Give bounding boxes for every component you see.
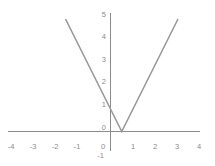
y-tick-label--1: -1 <box>90 152 104 160</box>
x-tick-label--4: -4 <box>3 143 19 151</box>
series-line-abs-value <box>66 19 179 132</box>
x-tick-label-0: 0 <box>95 143 111 151</box>
x-tick-label-1: 1 <box>125 143 141 151</box>
x-tick-label-2: 2 <box>147 143 163 151</box>
y-tick-label-2: 2 <box>92 78 106 86</box>
y-tick-label-0: 0 <box>92 124 106 132</box>
x-tick-label--3: -3 <box>25 143 41 151</box>
chart-container: -4 -3 -2 -1 0 1 2 3 4 5 4 3 2 1 0 -1 <box>0 0 215 166</box>
x-tick-label-3: 3 <box>169 143 185 151</box>
x-tick-label-4: 4 <box>191 143 207 151</box>
y-tick-label-1: 1 <box>92 101 106 109</box>
y-tick-label-3: 3 <box>92 56 106 64</box>
y-tick-label-4: 4 <box>92 33 106 41</box>
y-tick-label-5: 5 <box>92 11 106 19</box>
x-tick-label--2: -2 <box>47 143 63 151</box>
x-tick-label--1: -1 <box>69 143 85 151</box>
